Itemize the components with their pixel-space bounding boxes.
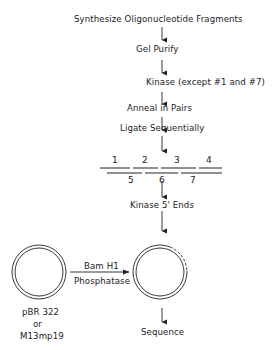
- vector-name-1: pBR 322: [22, 307, 59, 317]
- fragment-1: 1: [112, 155, 118, 165]
- fragment-3: 3: [174, 155, 180, 165]
- vector-or: or: [33, 319, 42, 329]
- fragment-2: 2: [142, 155, 148, 165]
- step-anneal: Anneal in Pairs: [127, 103, 192, 113]
- digest-enzyme-label: Bam H1: [84, 261, 119, 271]
- step-synthesize: Synthesize Oligonucleotide Fragments: [74, 14, 243, 24]
- step-kinase-ends: Kinase 5' Ends: [130, 200, 194, 210]
- step-gel-purify: Gel Purify: [136, 44, 178, 54]
- fragment-5: 5: [128, 175, 134, 185]
- step-kinase: Kinase (except #1 and #7): [146, 77, 265, 87]
- fragment-4: 4: [206, 155, 212, 165]
- vector-name-2: M13mp19: [20, 331, 64, 341]
- recombinant-plasmid-circle: [133, 245, 187, 299]
- digest-treatment-label: Phosphatase: [74, 276, 130, 286]
- step-ligate: Ligate Sequentially: [120, 123, 204, 133]
- fragment-7: 7: [190, 175, 196, 185]
- plasmid-vector-circle: [12, 245, 66, 299]
- step-sequence: Sequence: [141, 327, 184, 337]
- fragment-6: 6: [159, 175, 165, 185]
